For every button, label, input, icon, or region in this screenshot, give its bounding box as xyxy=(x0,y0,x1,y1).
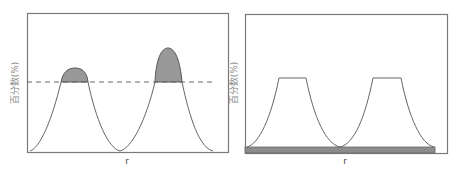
left-chart: 百分数(%) r xyxy=(0,0,232,174)
left-peak2-shaded-area xyxy=(155,48,182,82)
left-peak1-shaded-area xyxy=(61,68,88,82)
left-plot-frame xyxy=(28,14,229,153)
right-x-axis-label: r xyxy=(343,156,347,166)
left-distribution-curve xyxy=(30,82,213,151)
left-x-axis-label: r xyxy=(125,156,129,166)
right-baseline-band xyxy=(245,147,435,153)
right-clipped-curve xyxy=(247,78,434,147)
right-chart: 百分数(%) r xyxy=(229,0,459,174)
right-y-axis-label: 百分数(%) xyxy=(229,62,239,105)
right-plot-frame xyxy=(246,15,448,154)
left-chart-panel: 百分数(%) r xyxy=(0,0,232,174)
right-chart-panel: 百分数(%) r xyxy=(229,0,459,174)
left-y-axis-label: 百分数(%) xyxy=(9,62,20,105)
